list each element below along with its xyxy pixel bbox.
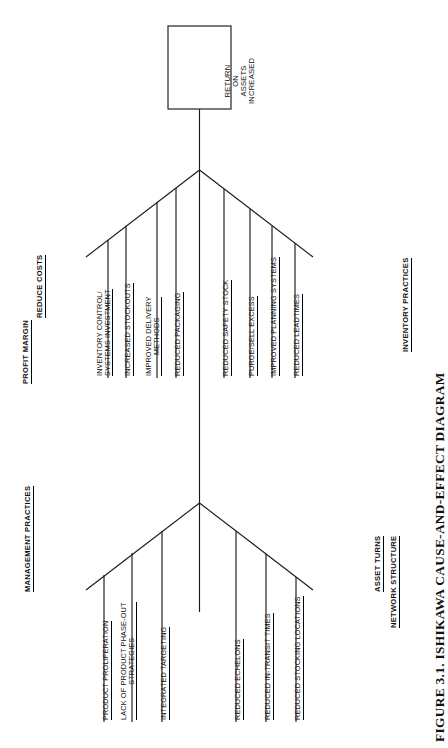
effect-box-label: RETURN ON ASSETS INCREASED (224, 58, 256, 104)
cause-reduced-in-transit-times: REDUCED IN-TRANSIT TIMES (264, 613, 274, 720)
effect-box-outline (168, 26, 231, 109)
cause-reduced-echelons: REDUCED ECHELONS (234, 639, 244, 720)
cause-integrated-targeting: INTEGRATED TARGETING (160, 627, 170, 720)
effect-line-4: INCREASED (248, 58, 256, 104)
rib-network-structure (200, 503, 314, 590)
cause-increased-stockouts: INCREASED STOCKOUTS (124, 283, 134, 376)
cause-lack-of-product-phase-out-strategies: LACK OF PRODUCT PHASE-OUT STRATEGIES (120, 602, 137, 720)
cause-improved-delivery-methods: IMPROVED DELIVERY METHODS (145, 297, 162, 376)
cause-improved-planning-systems: IMPROVED PLANNING SYSTEMS (270, 257, 280, 376)
rib-inventory-practices (200, 170, 314, 257)
spine-label-asset-turns: ASSET TURNS (374, 536, 384, 592)
cause-reduced-packaging: REDUCED PACKAGING (174, 292, 184, 376)
cause-reduced-stocking-locations: REDUCED STOCKING LOCATIONS (294, 596, 304, 720)
cause-purge-sell-excess: PURGE/SELL EXCESS (248, 296, 258, 376)
category-title-network-structure: NETWORK STRUCTURE (390, 536, 400, 628)
category-title-reduce-costs: REDUCE COSTS (36, 255, 46, 318)
category-title-inventory-practices: INVENTORY PRACTICES (402, 258, 412, 352)
spine-label-profit-margin: PROFIT MARGIN (22, 320, 32, 384)
rib-management-practices (86, 503, 200, 590)
cause-reduced-leadtimes: REDUCED LEADTIMES (293, 294, 303, 376)
cause-inventory-control-systems-investment: INVENTORY CONTROL/ SYSTEMS INVESTMENT (96, 289, 113, 376)
category-title-management-practices: MANAGEMENT PRACTICES (24, 486, 34, 592)
cause-product-proliferation: PRODUCT PROLIFERATION (102, 621, 112, 720)
figure-caption: FIGURE 3.1. ISHIKAWA CAUSE-AND-EFFECT DI… (432, 372, 448, 742)
rib-reduce-costs (86, 170, 200, 257)
cause-reduced-safety-stock: REDUCED SAFETY STOCK (222, 280, 232, 376)
